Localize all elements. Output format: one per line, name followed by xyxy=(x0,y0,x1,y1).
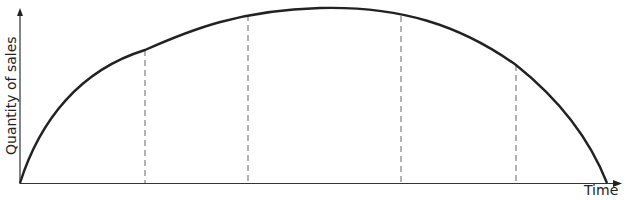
stage-dividers xyxy=(145,15,516,183)
y-axis-label: Quantity of sales xyxy=(3,45,19,155)
y-axis-arrow-icon xyxy=(17,8,23,16)
x-axis-label: Time xyxy=(584,182,618,198)
life-cycle-chart xyxy=(0,0,627,200)
sales-curve xyxy=(20,8,607,183)
